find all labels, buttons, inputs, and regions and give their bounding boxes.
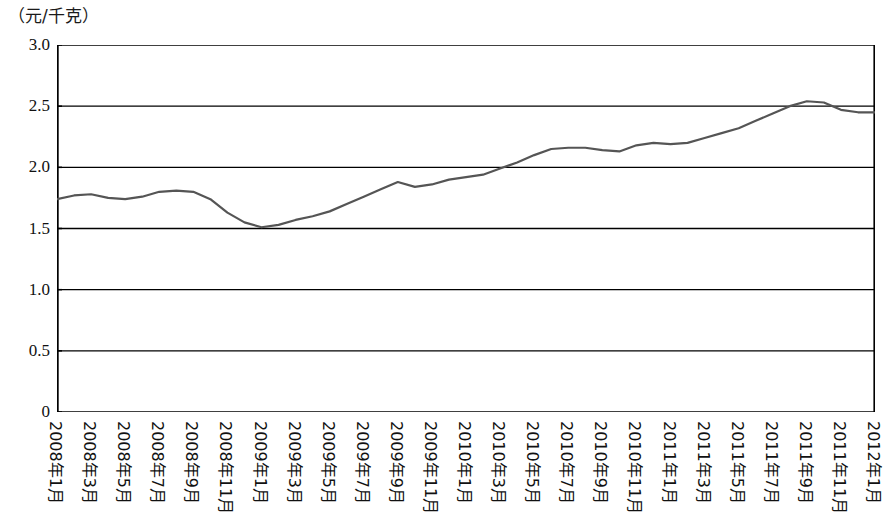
x-axis-tick-label: 2008年1月 <box>49 421 65 521</box>
x-axis-tick-label-text: 2010年1月 <box>456 421 472 504</box>
x-axis-tick-label-text: 2009年1月 <box>252 421 268 504</box>
x-axis-tick-label: 2011年3月 <box>697 421 713 521</box>
x-axis-tick-label: 2008年7月 <box>151 421 167 521</box>
x-axis-tick-label-text: 2011年7月 <box>763 421 779 504</box>
x-axis-tick-label-text: 2011年5月 <box>729 421 745 504</box>
x-axis-tick-label-text: 2010年5月 <box>524 421 540 504</box>
x-axis-tick-label: 2011年1月 <box>663 421 679 521</box>
x-axis-tick-label: 2010年5月 <box>526 421 542 521</box>
x-axis-tick-label-text: 2012年1月 <box>865 421 881 504</box>
x-axis-tick-label-text: 2008年7月 <box>149 421 165 504</box>
x-axis-tick-label-text: 2011年3月 <box>695 421 711 504</box>
x-axis-tick-label: 2011年11月 <box>833 421 849 521</box>
x-axis-tick-label-text: 2008年3月 <box>81 421 97 504</box>
x-axis-tick-label-text: 2008年5月 <box>115 421 131 504</box>
x-axis-tick-label: 2009年9月 <box>390 421 406 521</box>
x-axis-tick-label-text: 2010年9月 <box>592 421 608 504</box>
x-axis-tick-label: 2008年9月 <box>185 421 201 521</box>
x-axis-tick-label-text: 2010年3月 <box>490 421 506 504</box>
x-axis-tick-label-text: 2011年11月 <box>831 421 847 514</box>
x-axis-tick-label-text: 2009年9月 <box>388 421 404 504</box>
x-axis-tick-label: 2010年7月 <box>560 421 576 521</box>
x-axis-tick-label: 2009年5月 <box>322 421 338 521</box>
x-axis-tick-label-text: 2010年7月 <box>558 421 574 504</box>
x-axis-tick-labels: 2008年1月2008年3月2008年5月2008年7月2008年9月2008年… <box>0 0 883 523</box>
x-axis-tick-label: 2012年1月 <box>867 421 883 521</box>
x-axis-tick-label: 2010年1月 <box>458 421 474 521</box>
x-axis-tick-label: 2009年1月 <box>254 421 270 521</box>
x-axis-tick-label-text: 2011年9月 <box>797 421 813 504</box>
x-axis-tick-label-text: 2009年11月 <box>422 421 438 514</box>
x-axis-tick-label: 2011年7月 <box>765 421 781 521</box>
x-axis-tick-label: 2010年9月 <box>594 421 610 521</box>
x-axis-tick-label: 2010年11月 <box>628 421 644 521</box>
x-axis-tick-label: 2009年7月 <box>356 421 372 521</box>
x-axis-tick-label: 2010年3月 <box>492 421 508 521</box>
x-axis-tick-label: 2009年11月 <box>424 421 440 521</box>
x-axis-tick-label-text: 2009年7月 <box>354 421 370 504</box>
x-axis-tick-label-text: 2008年11月 <box>217 421 233 514</box>
x-axis-tick-label: 2008年11月 <box>219 421 235 521</box>
x-axis-tick-label: 2008年5月 <box>117 421 133 521</box>
x-axis-tick-label-text: 2009年3月 <box>286 421 302 504</box>
x-axis-tick-label-text: 2009年5月 <box>320 421 336 504</box>
x-axis-tick-label: 2009年3月 <box>288 421 304 521</box>
x-axis-tick-label-text: 2010年11月 <box>626 421 642 514</box>
price-line-chart: （元/千克） 3.02.52.01.51.00.50 2008年1月2008年3… <box>0 0 883 523</box>
x-axis-tick-label-text: 2008年9月 <box>183 421 199 504</box>
x-axis-tick-label-text: 2011年1月 <box>661 421 677 504</box>
x-axis-tick-label: 2011年9月 <box>799 421 815 521</box>
x-axis-tick-label: 2008年3月 <box>83 421 99 521</box>
x-axis-tick-label-text: 2008年1月 <box>47 421 63 504</box>
x-axis-tick-label: 2011年5月 <box>731 421 747 521</box>
